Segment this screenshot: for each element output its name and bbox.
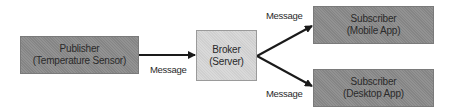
edge-label-publisher-broker: Message [150,64,186,75]
edge-label-broker-mobile: Message [266,10,302,21]
subscriber-desktop-subtitle: (Desktop App) [343,88,404,100]
broker-node: Broker (Server) [196,30,257,81]
subscriber-desktop-title: Subscriber [351,76,397,88]
subscriber-desktop-node: Subscriber (Desktop App) [313,69,434,107]
publisher-title: Publisher [60,43,100,55]
subscriber-mobile-node: Subscriber (Mobile App) [313,6,434,44]
edge-broker-to-desktop [257,56,312,86]
edge-label-broker-desktop: Message [266,88,302,99]
broker-subtitle: (Server) [209,56,244,68]
subscriber-mobile-title: Subscriber [351,13,397,25]
pubsub-diagram: Publisher (Temperature Sensor) Message B… [0,0,454,111]
edge-broker-to-mobile [257,26,312,56]
broker-title: Broker [212,44,240,56]
subscriber-mobile-subtitle: (Mobile App) [347,25,401,37]
publisher-subtitle: (Temperature Sensor) [33,55,126,67]
publisher-node: Publisher (Temperature Sensor) [20,36,139,74]
